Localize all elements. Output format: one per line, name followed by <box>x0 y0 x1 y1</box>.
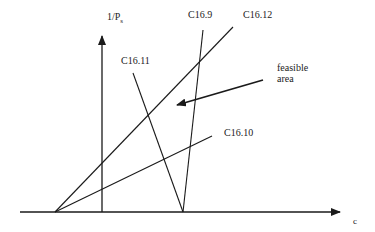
y-axis-label: 1/Ps <box>107 11 123 27</box>
constraint-c16-9-line <box>183 30 203 212</box>
diagram-canvas <box>0 0 375 232</box>
constraint-c16-10-label: C16.10 <box>224 127 253 138</box>
feasible-area-label-line1: feasible <box>277 62 308 73</box>
feasible-area-label: feasible area <box>277 62 308 84</box>
feasible-area-arrow <box>177 80 263 105</box>
feasible-area-label-line2: area <box>277 73 308 84</box>
y-axis-label-subscript: s <box>120 17 123 25</box>
constraint-c16-11-line <box>133 73 183 212</box>
constraint-c16-10-line <box>55 136 212 212</box>
x-axis-label: c <box>353 216 357 227</box>
constraint-c16-11-label: C16.11 <box>121 55 150 66</box>
constraint-c16-12-label: C16.12 <box>243 9 272 20</box>
constraint-c16-9-label: C16.9 <box>188 9 212 20</box>
